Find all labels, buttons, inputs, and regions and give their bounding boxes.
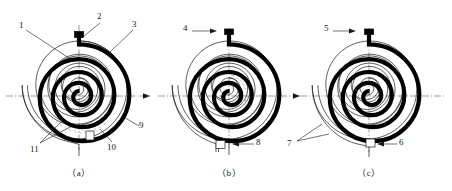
leader-4-arrowhead xyxy=(210,28,217,33)
ref-numeral-10: 10 xyxy=(107,143,116,152)
figure-a-caption: （a） xyxy=(59,166,99,179)
ref-numeral-5: 5 xyxy=(324,24,329,33)
leader-3 xyxy=(110,30,133,52)
ref-numeral-2: 2 xyxy=(97,12,102,21)
fig-c-outer-end-cap xyxy=(365,29,374,35)
ref-numeral-3: 3 xyxy=(132,20,137,29)
fig-b-thin-tail xyxy=(172,85,229,155)
leader-5-arrowhead xyxy=(349,28,356,33)
figure-sheet: 1 2 3 9 10 11 4 8 5 6 7 （a） （b） （c） xyxy=(0,0,452,191)
leader-11-a xyxy=(40,120,63,143)
ref-numeral-9: 9 xyxy=(139,121,144,130)
fig-a-inner-end-cap xyxy=(86,131,94,140)
figure-a-group xyxy=(6,23,150,156)
fig-b-inner-end-cap xyxy=(216,141,225,149)
leader-2 xyxy=(84,23,100,36)
ref-numeral-4: 4 xyxy=(183,24,188,33)
fig-b-thick-spiral xyxy=(190,32,279,141)
figure-c-caption: （c） xyxy=(349,166,389,179)
fig-a-axis-arrowhead xyxy=(143,93,150,99)
figure-b-caption: （b） xyxy=(209,166,249,179)
figure-b-group xyxy=(158,28,300,155)
ref-numeral-11: 11 xyxy=(30,145,39,154)
fig-a-thick-spiral xyxy=(40,35,130,141)
leader-9 xyxy=(122,116,139,126)
ref-numeral-6: 6 xyxy=(399,138,404,147)
ref-numeral-7: 7 xyxy=(287,139,292,148)
ref-numeral-8: 8 xyxy=(256,138,261,147)
spiral-diagram-canvas xyxy=(0,0,452,191)
fig-c-thick-spiral xyxy=(330,32,420,141)
fig-b-axis-arrowhead xyxy=(293,93,300,99)
fig-b-outer-end-cap xyxy=(225,29,234,35)
figure-c-group xyxy=(297,28,444,157)
ref-numeral-1: 1 xyxy=(19,21,24,30)
leader-1 xyxy=(26,30,72,60)
fig-c-inner-end-cap xyxy=(366,139,375,147)
fig-a-outer-end-cap xyxy=(75,32,84,38)
